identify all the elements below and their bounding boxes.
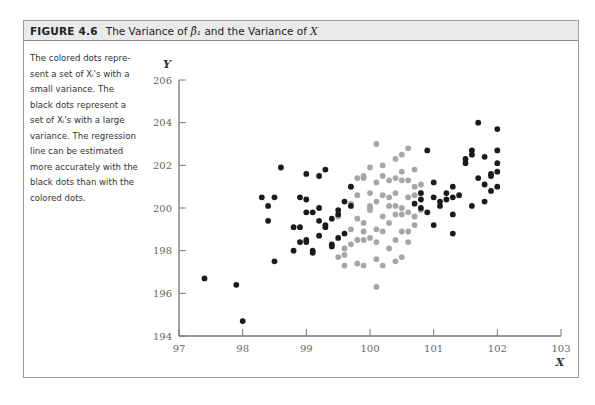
data-point (494, 184, 500, 190)
data-point (418, 182, 424, 188)
data-point (354, 237, 360, 243)
data-point (399, 229, 405, 235)
data-point (329, 216, 335, 222)
data-point (444, 190, 450, 196)
data-point (393, 156, 399, 162)
x-tick-label: 100 (360, 343, 379, 354)
data-point (431, 180, 437, 186)
data-point (469, 152, 475, 158)
data-point (450, 184, 456, 190)
data-point (393, 175, 399, 181)
data-point (272, 194, 278, 200)
data-point (386, 246, 392, 252)
data-point (494, 169, 500, 175)
x-tick-label: 99 (300, 343, 313, 354)
x-tick-label: 98 (236, 343, 249, 354)
data-point (482, 182, 488, 188)
data-point (354, 175, 360, 181)
data-point (431, 222, 437, 228)
data-point (380, 162, 386, 168)
data-point (444, 197, 450, 203)
data-point (233, 282, 239, 288)
data-point (393, 237, 399, 243)
x-tick-label: 102 (488, 343, 507, 354)
data-point (297, 239, 303, 245)
data-point (323, 222, 329, 228)
data-point (488, 188, 494, 194)
data-point (399, 254, 405, 260)
data-point (405, 229, 411, 235)
data-point (361, 220, 367, 226)
y-tick-label: 194 (153, 331, 172, 342)
data-point (482, 154, 488, 160)
data-point (303, 197, 309, 203)
data-point (348, 241, 354, 247)
data-point (450, 212, 456, 218)
data-point (405, 177, 411, 183)
data-point (272, 258, 278, 264)
data-point (342, 246, 348, 252)
data-point (323, 167, 329, 173)
data-point (456, 192, 462, 198)
data-point (374, 239, 380, 245)
data-point (380, 263, 386, 269)
data-point (488, 171, 494, 177)
data-point (342, 263, 348, 269)
data-point (342, 252, 348, 258)
data-point (418, 190, 424, 196)
data-point (380, 214, 386, 220)
data-point (412, 192, 418, 198)
data-point (482, 199, 488, 205)
data-point (316, 205, 322, 211)
data-point (450, 231, 456, 237)
y-tick-label: 204 (153, 117, 172, 128)
data-point (386, 203, 392, 209)
data-point (418, 197, 424, 203)
data-point (494, 160, 500, 166)
data-point (399, 152, 405, 158)
x-tick-label: 103 (551, 343, 570, 354)
data-point (348, 226, 354, 232)
data-point (240, 318, 246, 324)
data-point (303, 209, 309, 215)
data-point (259, 194, 265, 200)
data-point (291, 224, 297, 230)
data-point (348, 184, 354, 190)
data-point (361, 173, 367, 179)
data-point (329, 244, 335, 250)
data-point (278, 165, 284, 171)
x-tick-label: 97 (173, 343, 186, 354)
data-point (342, 199, 348, 205)
data-point (291, 248, 297, 254)
y-tick-label: 198 (153, 245, 172, 256)
data-point (412, 222, 418, 228)
data-point (418, 205, 424, 211)
data-point (405, 194, 411, 200)
data-point (393, 258, 399, 264)
data-point (310, 248, 316, 254)
data-point (494, 126, 500, 132)
data-point (354, 216, 360, 222)
data-point (297, 224, 303, 230)
y-tick-label: 202 (153, 160, 172, 171)
data-point (367, 190, 373, 196)
data-point (424, 148, 430, 154)
data-point (303, 171, 309, 177)
data-point (393, 203, 399, 209)
data-point (265, 203, 271, 209)
data-point (469, 203, 475, 209)
data-point (374, 256, 380, 262)
data-point (367, 207, 373, 213)
data-point (412, 201, 418, 207)
data-point (475, 175, 481, 181)
data-point (265, 218, 271, 224)
y-tick-label: 200 (153, 203, 172, 214)
data-point (386, 220, 392, 226)
data-point (380, 229, 386, 235)
data-point (342, 231, 348, 237)
data-point (405, 145, 411, 151)
data-point (386, 194, 392, 200)
data-point (361, 237, 367, 243)
data-point (494, 148, 500, 154)
data-point (354, 192, 360, 198)
